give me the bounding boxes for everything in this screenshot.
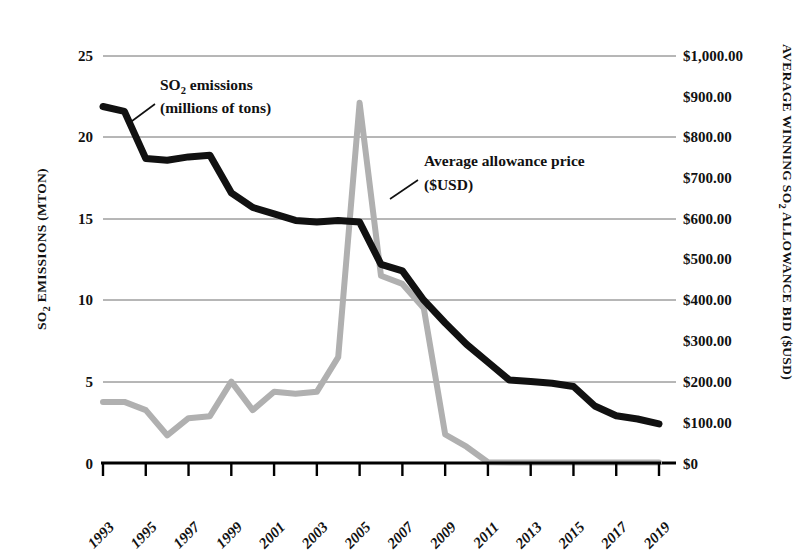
x-tick-label-2015: 2015 <box>554 518 588 552</box>
right-tick-800: $800.00 <box>683 129 732 145</box>
x-tick-label-1995: 1995 <box>127 518 160 551</box>
x-tick-label-2019: 2019 <box>640 518 674 552</box>
left-axis-title: SO2 EMISSIONS (MTON) <box>34 168 52 330</box>
allowance-annotation-leader-line <box>390 180 418 199</box>
right-tick-400: $400.00 <box>683 292 732 308</box>
right-tick-500: $500.00 <box>683 251 732 267</box>
right-tick-600: $600.00 <box>683 211 732 227</box>
x-tick-label-2017: 2017 <box>597 518 631 552</box>
x-axis: 1993199519971999200120032005200720092011… <box>85 463 674 552</box>
left-tick-20: 20 <box>78 129 93 145</box>
x-tick-label-2005: 2005 <box>341 518 375 552</box>
x-tick-label-2007: 2007 <box>383 518 417 552</box>
x-tick-label-2009: 2009 <box>426 518 460 552</box>
x-tick-label-1997: 1997 <box>170 518 203 551</box>
right-axis-title-part1: AVERAGE WINNING SO <box>780 44 795 203</box>
x-tick-label-2013: 2013 <box>512 518 546 552</box>
right-tick-1000: $1,000.00 <box>683 48 743 64</box>
right-axis-title: AVERAGE WINNING SO2 ALLOWANCE BID ($USD) <box>777 44 795 380</box>
left-axis-tick-labels: 25 20 15 10 5 0 <box>78 48 93 472</box>
allowance-annotation-line1: Average allowance price <box>424 152 585 169</box>
svg-text:AVERAGE WINNING SO2 ALLOWANCE: AVERAGE WINNING SO2 ALLOWANCE BID ($USD) <box>777 44 795 380</box>
x-tick-label-1993: 1993 <box>85 518 118 551</box>
chart-container: 25 20 15 10 5 0 $1,000.00 $900.00 $800.0… <box>0 0 805 558</box>
so2-annotation-line1-rest: emissions <box>186 76 253 93</box>
right-tick-0: $0 <box>683 456 698 472</box>
right-tick-700: $700.00 <box>683 170 732 186</box>
right-axis-title-part2: ALLOWANCE BID ($USD) <box>780 209 795 380</box>
right-tick-300: $300.00 <box>683 333 732 349</box>
left-tick-15: 15 <box>78 211 93 227</box>
svg-text:SO2 EMISSIONS (MTON): SO2 EMISSIONS (MTON) <box>34 168 52 330</box>
so2-annotation-line2: (millions of tons) <box>160 99 271 117</box>
left-tick-5: 5 <box>86 374 94 390</box>
x-tick-label-2003: 2003 <box>298 518 332 552</box>
left-tick-25: 25 <box>78 48 93 64</box>
left-axis-title-rest: EMISSIONS (MTON) <box>34 168 49 306</box>
right-axis-tickmarks <box>659 56 676 463</box>
so2-annotation-leader-line <box>128 104 155 124</box>
left-tick-0: 0 <box>86 456 94 472</box>
right-tick-100: $100.00 <box>683 415 732 431</box>
x-tick-label-2001: 2001 <box>255 519 288 552</box>
right-tick-900: $900.00 <box>683 89 732 105</box>
allowance-price-annotation: Average allowance price ($USD) <box>390 152 585 199</box>
so2-annotation-line1-main: SO <box>160 76 181 93</box>
allowance-annotation-line2: ($USD) <box>424 176 473 194</box>
left-tick-10: 10 <box>78 292 93 308</box>
right-axis-tick-labels: $1,000.00 $900.00 $800.00 $700.00 $600.0… <box>683 48 743 472</box>
so2-emissions-annotation: SO2 emissions (millions of tons) <box>128 76 271 124</box>
x-axis-tick-labels: 1993199519971999200120032005200720092011… <box>85 518 674 552</box>
x-tick-label-2011: 2011 <box>469 519 502 552</box>
left-axis-title-main: SO <box>34 311 49 330</box>
svg-text:SO2 emissions: SO2 emissions <box>160 76 253 96</box>
right-tick-200: $200.00 <box>683 374 732 390</box>
chart-svg: 25 20 15 10 5 0 $1,000.00 $900.00 $800.0… <box>0 0 805 558</box>
x-tick-label-1999: 1999 <box>213 518 246 551</box>
